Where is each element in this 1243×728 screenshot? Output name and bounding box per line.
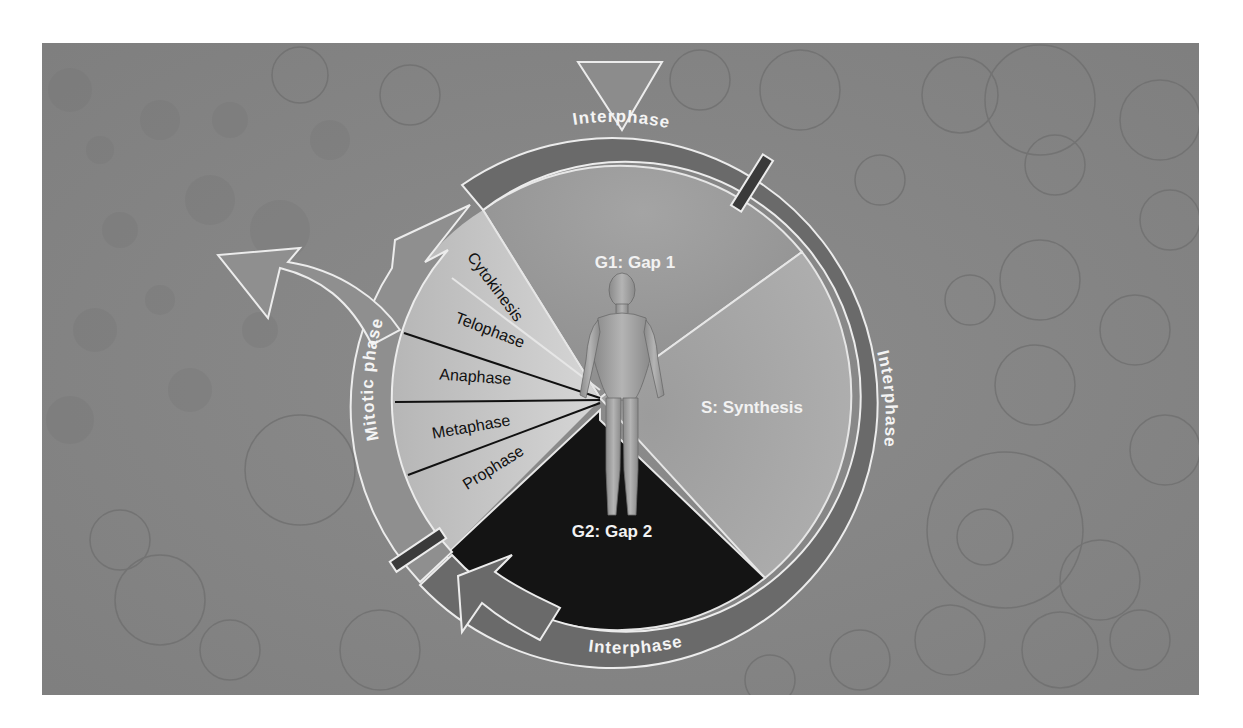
label-s: S: Synthesis bbox=[701, 398, 803, 417]
label-g1: G1: Gap 1 bbox=[595, 253, 675, 272]
cell-cycle-diagram: Interphase Interphase Interphase Mitotic… bbox=[0, 0, 1243, 728]
label-g2: G2: Gap 2 bbox=[572, 522, 652, 541]
